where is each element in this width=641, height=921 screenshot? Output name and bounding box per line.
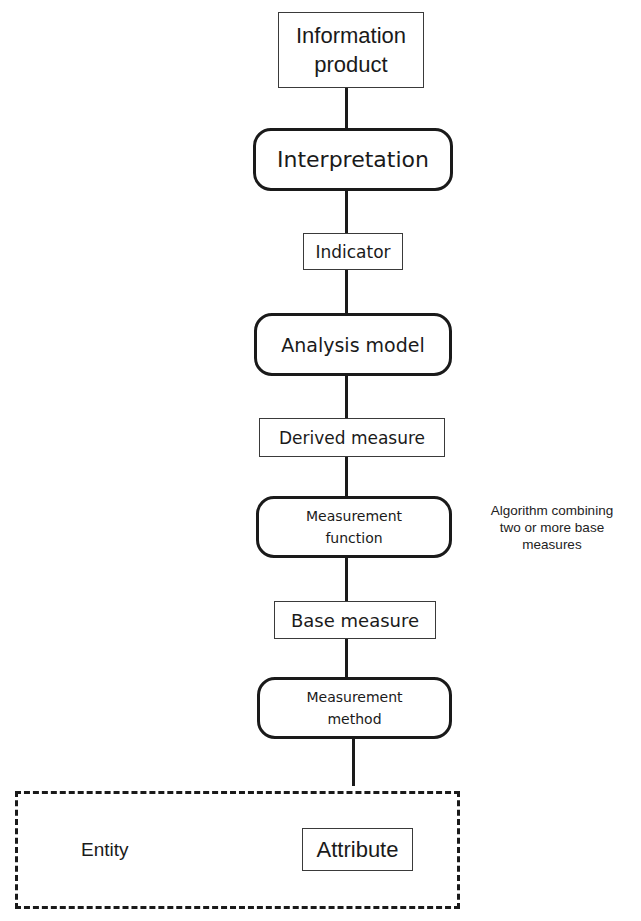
node-label: Base measure [291, 610, 419, 631]
connector-line [345, 456, 348, 497]
node-label: Derived measure [279, 428, 425, 448]
connector-line [352, 738, 355, 786]
node-base-measure: Base measure [274, 601, 436, 639]
connector-line [345, 269, 348, 314]
node-label: Measurement [306, 505, 402, 527]
node-label: Measurement [306, 686, 402, 708]
entity-label: Entity [81, 839, 129, 861]
annotation-text: Algorithm combining [468, 502, 636, 519]
node-label: Information [296, 21, 406, 50]
connector-line [345, 557, 348, 602]
connector-line [345, 375, 348, 419]
connector-line [345, 638, 348, 678]
node-measurement-function: Measurement function [256, 496, 452, 558]
node-label: product [314, 50, 387, 79]
node-analysis-model: Analysis model [254, 313, 452, 376]
node-indicator: Indicator [303, 233, 403, 270]
node-label: Analysis model [281, 334, 424, 356]
node-label: Indicator [315, 242, 390, 262]
annotation-text: measures [468, 536, 636, 553]
node-information-product: Information product [278, 12, 424, 88]
connector-line [345, 87, 348, 129]
node-derived-measure: Derived measure [259, 418, 445, 457]
node-attribute: Attribute [302, 828, 413, 871]
connector-line [345, 190, 348, 234]
annotation-text: two or more base [468, 519, 636, 536]
node-label: function [325, 527, 382, 549]
annotation-measurement-function: Algorithm combining two or more base mea… [468, 502, 636, 553]
node-measurement-method: Measurement method [257, 677, 452, 739]
node-label: method [327, 708, 381, 730]
node-interpretation: Interpretation [253, 128, 453, 191]
node-label: Attribute [317, 837, 399, 863]
node-label: Interpretation [277, 147, 429, 172]
